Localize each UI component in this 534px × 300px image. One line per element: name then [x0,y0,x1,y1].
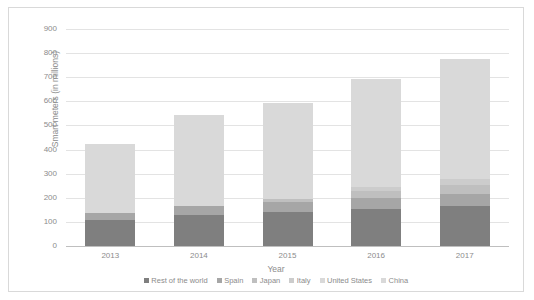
y-axis-tick-label: 800 [25,49,57,57]
legend-swatch-icon [320,278,325,283]
legend-label: Italy [297,276,311,285]
bar-2017[interactable] [440,59,490,246]
bar-2013[interactable] [85,144,135,246]
chart-legend: Rest of the worldSpainJapanItalyUnited S… [9,276,534,285]
legend-label: Japan [260,276,280,285]
legend-item[interactable]: Rest of the world [144,276,208,285]
bar-segment[interactable] [263,103,313,199]
x-axis-tick-label: 2017 [430,251,500,260]
legend-item[interactable]: United States [320,276,373,285]
x-axis-tick-label: 2016 [341,251,411,260]
y-axis-tick-label: 0 [25,242,57,250]
bar-segment[interactable] [351,191,401,198]
y-axis-tick-label: 200 [25,194,57,202]
legend-swatch-icon [252,278,257,283]
legend-label: Rest of the world [151,276,207,285]
y-axis-tick-label: 500 [25,121,57,129]
y-axis-tick-label: 600 [25,97,57,105]
bar-2016[interactable] [351,79,401,246]
legend-item[interactable]: China [381,276,408,285]
legend-item[interactable]: Spain [217,276,244,285]
legend-swatch-icon [217,278,222,283]
legend-item[interactable]: Italy [289,276,310,285]
bar-segment[interactable] [85,213,135,220]
bar-segment[interactable] [351,209,401,246]
y-axis-tick-label: 900 [25,25,57,33]
bar-segment[interactable] [174,215,224,246]
y-axis-tick-label: 100 [25,218,57,226]
bar-segment[interactable] [85,220,135,246]
bar-2014[interactable] [174,115,224,246]
legend-label: China [389,276,409,285]
x-axis-title: Year [9,264,534,274]
gridline [66,29,509,30]
bar-segment[interactable] [440,194,490,206]
legend-swatch-icon [289,278,294,283]
bar-segment[interactable] [351,198,401,210]
x-axis-line [66,246,509,247]
bar-segment[interactable] [440,185,490,195]
legend-label: United States [327,276,372,285]
bar-segment[interactable] [440,59,490,179]
y-axis-tick-label: 400 [25,146,57,154]
legend-label: Spain [224,276,243,285]
bar-segment[interactable] [85,144,135,213]
bar-segment[interactable] [440,206,490,246]
bar-segment[interactable] [174,206,224,215]
bar-segment[interactable] [174,115,224,206]
y-axis-tick-label: 700 [25,73,57,81]
x-axis-tick-label: 2013 [75,251,145,260]
chart-frame: Smart meters (in millions) Year Rest of … [8,7,524,292]
gridline [66,53,509,54]
x-axis-tick-label: 2014 [164,251,234,260]
plot-area [66,29,509,246]
bar-segment[interactable] [351,79,401,187]
legend-item[interactable]: Japan [252,276,280,285]
bar-segment[interactable] [263,212,313,246]
legend-swatch-icon [381,278,386,283]
bar-2015[interactable] [263,103,313,246]
x-axis-tick-label: 2015 [253,251,323,260]
bar-segment[interactable] [263,202,313,213]
y-axis-tick-label: 300 [25,170,57,178]
legend-swatch-icon [144,278,149,283]
